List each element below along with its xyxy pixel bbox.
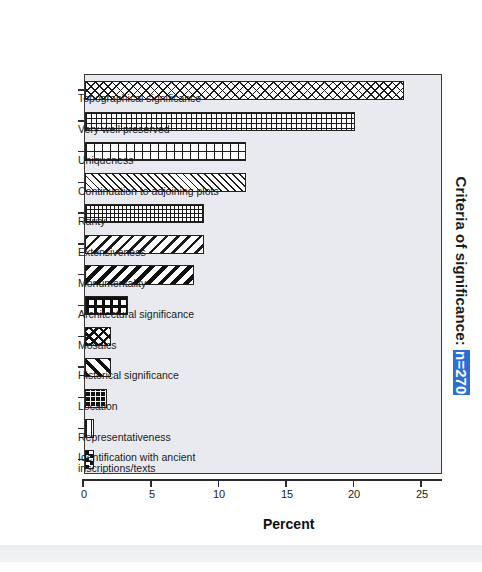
category-label-line: Mosaics [78,339,117,351]
category-label-line: Uniqueness [78,154,133,166]
category-label-line: Location [78,400,118,412]
axis-tick [353,479,355,487]
category-label-line: Identification with ancient [78,451,195,463]
category-label-line: Architectural significance [78,308,194,320]
axis-tick-label-text: 20 [348,488,360,500]
category-label-line: Extensiveness [78,246,146,258]
axis-tick-label-text: 15 [281,488,293,500]
category-tick [78,89,84,90]
category-tick [78,336,84,337]
category-tick [78,274,84,275]
axis-tick [218,479,220,487]
axis-tick [285,479,287,487]
category-label-line: Rarity [78,215,105,227]
category-label-line: Monumentality [78,277,146,289]
category-tick [78,397,84,398]
category-label: Extensiveness [78,247,146,258]
category-tick [78,151,84,152]
category-label: Monumentality [78,278,146,289]
category-tick [78,428,84,429]
axis-tick [150,479,152,487]
category-label: Location [78,401,118,412]
category-label: Rarity [78,216,105,227]
category-label-line: Historical significance [78,369,179,381]
axis-tick [82,479,84,487]
category-tick [78,120,84,121]
category-label: Architectural significance [78,309,194,320]
scan-artifact-band-2 [0,555,482,562]
category-label: Mosaics [78,340,117,351]
chart-stage: Criteria of significance: n=270 05101520… [6,16,476,556]
category-label: Historical significance [78,370,179,381]
axis-tick-label-text: 0 [81,488,87,500]
category-label: Uniqueness [78,155,133,166]
category-label: Topographical significance [78,93,201,104]
category-label-line: Continuation to adjoining plots [78,185,219,197]
category-label-line: inscriptions/texts [78,463,195,474]
sample-size-badge: n=270 [453,350,470,395]
category-label: Identification with ancientinscriptions/… [78,452,195,474]
category-label: Very well preserved [78,124,170,135]
category-tick [78,212,84,213]
category-tick [78,305,84,306]
page-edge [0,562,482,572]
category-tick [78,182,84,183]
category-label: Representativeness [78,432,171,443]
axis-tick [420,479,422,487]
value-axis-line [84,479,442,481]
axis-tick-label-text: 25 [416,488,428,500]
category-label-line: Representativeness [78,431,171,443]
category-tick [78,366,84,367]
axis-tick-label-text: 5 [149,488,155,500]
chart-title: Criteria of significance: n=270 [453,16,470,556]
category-tick [78,243,84,244]
axis-tick-label-text: 10 [213,488,225,500]
chart-title-text: Criteria of significance: [453,177,470,350]
category-label: Continuation to adjoining plots [78,186,219,197]
category-label-line: Topographical significance [78,92,201,104]
category-label-line: Very well preserved [78,123,170,135]
axis-title-percent: Percent [263,516,314,532]
bar-chart-figure: Criteria of significance: n=270 05101520… [0,0,482,572]
